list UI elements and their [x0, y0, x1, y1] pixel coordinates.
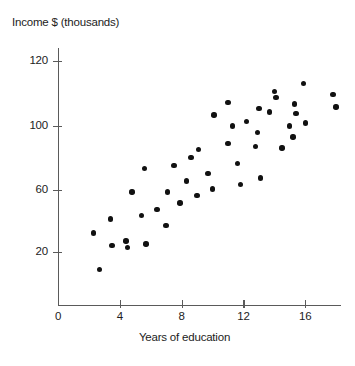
- data-point: [333, 104, 338, 109]
- x-tick-mark: [243, 300, 244, 308]
- data-point: [210, 186, 215, 191]
- x-tick-label: 16: [292, 310, 318, 322]
- data-point: [97, 267, 102, 272]
- y-tick-mark: [53, 126, 62, 127]
- x-tick-mark: [120, 300, 121, 308]
- data-point: [205, 171, 210, 176]
- data-point: [273, 95, 278, 100]
- x-tick-mark: [305, 300, 306, 308]
- data-point: [293, 111, 298, 116]
- data-point: [177, 200, 182, 205]
- x-tick-mark: [182, 300, 183, 308]
- y-tick-mark: [53, 252, 62, 253]
- data-point: [235, 161, 240, 166]
- data-point: [290, 134, 295, 139]
- data-point: [255, 130, 260, 135]
- data-point: [129, 189, 134, 194]
- data-point: [279, 145, 284, 150]
- y-tick-label: 100: [14, 119, 48, 131]
- data-point: [125, 245, 130, 250]
- data-point: [225, 100, 230, 105]
- data-point: [163, 223, 168, 228]
- data-point: [165, 189, 170, 194]
- data-point: [225, 141, 230, 146]
- data-point: [91, 230, 96, 235]
- data-point: [188, 155, 193, 160]
- data-point: [238, 182, 243, 187]
- data-point: [244, 119, 249, 124]
- x-axis-title: Years of education: [0, 331, 355, 343]
- data-point: [230, 123, 235, 128]
- data-point: [253, 144, 258, 149]
- y-axis-line: [58, 48, 59, 306]
- y-tick-label: 20: [14, 245, 48, 257]
- data-point: [211, 112, 216, 117]
- data-point: [139, 213, 144, 218]
- x-tick-label: 12: [230, 310, 256, 322]
- scatter-chart: Income $ (thousands) 1201006020 0481216 …: [0, 0, 355, 366]
- data-point: [123, 238, 128, 243]
- x-tick-label: 8: [169, 310, 195, 322]
- data-point: [171, 163, 176, 168]
- data-point: [267, 109, 272, 114]
- data-point: [196, 147, 201, 152]
- data-point: [258, 175, 263, 180]
- y-tick-label: 60: [14, 183, 48, 195]
- data-point: [194, 193, 199, 198]
- data-point: [301, 81, 306, 86]
- data-point: [292, 101, 297, 106]
- x-axis-line: [58, 305, 341, 306]
- y-axis-title: Income $ (thousands): [12, 16, 119, 28]
- data-point: [109, 243, 114, 248]
- data-point: [108, 216, 113, 221]
- data-point: [287, 123, 292, 128]
- data-point: [184, 178, 189, 183]
- data-point: [256, 106, 261, 111]
- x-tick-label: 0: [45, 310, 71, 322]
- data-point: [154, 207, 159, 212]
- y-tick-mark: [53, 61, 62, 62]
- data-point: [143, 241, 148, 246]
- x-axis-title-text: Years of education: [125, 331, 230, 343]
- data-point: [330, 92, 335, 97]
- x-tick-label: 4: [107, 310, 133, 322]
- data-point: [272, 89, 277, 94]
- y-tick-mark: [53, 190, 62, 191]
- data-point: [303, 120, 308, 125]
- y-tick-label: 120: [14, 54, 48, 66]
- data-point: [142, 166, 147, 171]
